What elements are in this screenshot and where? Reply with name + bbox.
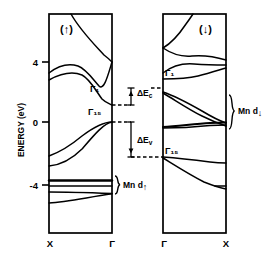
x-label-right-panel-Gamma: Γ: [161, 238, 167, 249]
spin-up-arrow-icon: (↑): [60, 23, 73, 35]
y-tick-label-0: 0: [33, 117, 38, 128]
y-axis-label: ENERGY (eV): [16, 103, 26, 157]
figure-background: [0, 0, 277, 265]
y-tick-label-minus4: -4: [30, 180, 39, 191]
x-label-left-panel-X: X: [47, 238, 54, 249]
x-label-right-panel-X: X: [223, 238, 230, 249]
y-tick-label-4: 4: [33, 57, 39, 68]
label-gamma1-spin-down: Γ₁: [165, 68, 174, 78]
label-gamma1-spin-up: Γ₁: [90, 84, 99, 94]
label-gamma15-spin-up: Γ₁₅: [88, 107, 101, 117]
x-label-left-panel-Gamma: Γ: [109, 238, 115, 249]
spin-down-arrow-icon: (↓): [199, 23, 212, 35]
band-structure-figure: ENERGY (eV) 4 0 -4 (↑): [0, 0, 277, 265]
label-gamma15-spin-down: Γ₁₅: [165, 146, 178, 156]
